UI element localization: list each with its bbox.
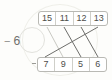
connector-15-to-9[interactable] bbox=[47, 27, 63, 57]
connector-lines bbox=[0, 0, 112, 80]
exercise-canvas: − 6 15 11 12 13 7 9 5 6 bbox=[0, 0, 112, 80]
